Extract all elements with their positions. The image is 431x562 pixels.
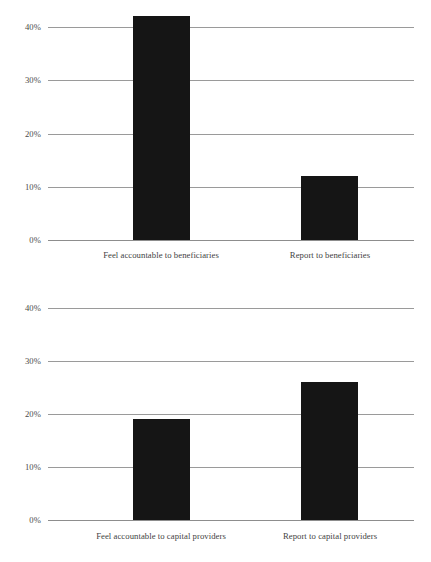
y-axis-tick-0: 0% (29, 515, 41, 525)
y-axis-tick-40: 40% (25, 22, 41, 32)
y-axis-tick-40: 40% (25, 303, 41, 313)
x-axis-label-report-capital-providers: Report to capital providers (283, 531, 377, 541)
chart-panel-capital-providers: 40% 30% 20% 10% 0% Feel accountable to c… (0, 281, 431, 562)
gridline-10: 10% (48, 467, 414, 468)
y-axis-tick-0: 0% (29, 235, 41, 245)
x-axis-label-feel-accountable-capital-providers: Feel accountable to capital providers (96, 531, 226, 541)
plot-area-bottom: 40% 30% 20% 10% 0% (48, 308, 414, 520)
x-axis-label-feel-accountable-beneficiaries: Feel accountable to beneficiaries (103, 250, 219, 260)
gridline-20: 20% (48, 414, 414, 415)
chart-panel-beneficiaries: 40% 30% 20% 10% 0% Feel accountable to b… (0, 0, 431, 281)
y-axis-tick-20: 20% (25, 129, 41, 139)
bar-report-beneficiaries (301, 176, 358, 240)
bar-feel-accountable-beneficiaries (133, 16, 190, 240)
y-axis-tick-10: 10% (25, 182, 41, 192)
y-axis-tick-20: 20% (25, 409, 41, 419)
y-axis-tick-30: 30% (25, 75, 41, 85)
bar-report-capital-providers (301, 382, 358, 520)
x-axis-label-report-beneficiaries: Report to beneficiaries (290, 250, 370, 260)
y-axis-tick-30: 30% (25, 356, 41, 366)
plot-area-top: 40% 30% 20% 10% 0% (48, 27, 414, 240)
y-axis-tick-10: 10% (25, 462, 41, 472)
gridline-40: 40% (48, 308, 414, 309)
figure-two-bar-charts: 40% 30% 20% 10% 0% Feel accountable to b… (0, 0, 431, 562)
gridline-30: 30% (48, 80, 414, 81)
bar-feel-accountable-capital-providers (133, 419, 190, 520)
gridline-0-baseline: 0% (48, 520, 414, 521)
gridline-0-baseline: 0% (48, 240, 414, 241)
gridline-30: 30% (48, 361, 414, 362)
gridline-20: 20% (48, 134, 414, 135)
gridline-40: 40% (48, 27, 414, 28)
gridline-10: 10% (48, 187, 414, 188)
